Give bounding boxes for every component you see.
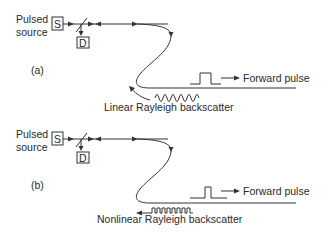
arrow-icon xyxy=(68,22,74,27)
svg-text:S: S xyxy=(54,133,61,145)
fiber-backscatter-diagram: Pulsed source S D (a) xyxy=(0,0,327,241)
forward-pulse-label: Forward pulse xyxy=(243,185,310,197)
panel-label: (a) xyxy=(31,64,44,76)
forward-pulse-shape xyxy=(190,73,221,84)
arrow-icon xyxy=(169,147,174,152)
detector-box: D xyxy=(77,37,89,49)
svg-text:D: D xyxy=(79,152,87,164)
backscatter-label: Nonlinear Rayleigh backscatter xyxy=(97,213,243,225)
source-box: S xyxy=(52,17,63,30)
backscatter-label: Linear Rayleigh backscatter xyxy=(104,101,234,113)
source-label-line2: source xyxy=(16,26,48,38)
forward-pulse-shape xyxy=(190,187,227,198)
arrow-icon xyxy=(132,22,138,27)
arrow-icon xyxy=(95,137,101,142)
arrow-icon xyxy=(68,137,74,142)
arrow-down-icon xyxy=(79,31,84,36)
arrow-icon xyxy=(95,22,101,27)
arrow-icon xyxy=(132,137,138,142)
arrow-right-icon xyxy=(234,76,240,81)
arrow-icon xyxy=(88,22,94,27)
svg-text:D: D xyxy=(79,37,87,49)
forward-pulse-label: Forward pulse xyxy=(243,72,310,84)
arrow-right-icon xyxy=(234,189,240,194)
source-box: S xyxy=(52,132,63,145)
panel-label: (b) xyxy=(31,179,44,191)
arrow-icon xyxy=(88,137,94,142)
detector-box: D xyxy=(77,152,89,164)
arrow-down-icon xyxy=(79,146,84,151)
source-label-line1: Pulsed xyxy=(16,128,48,140)
panel-b: Pulsed source S D (b) Forward pulse Nonl xyxy=(16,128,310,225)
source-label-line2: source xyxy=(16,141,48,153)
svg-text:S: S xyxy=(54,18,61,30)
panel-a: Pulsed source S D (a) xyxy=(16,13,310,113)
arrow-icon xyxy=(169,32,174,37)
source-label-line1: Pulsed xyxy=(16,13,48,25)
